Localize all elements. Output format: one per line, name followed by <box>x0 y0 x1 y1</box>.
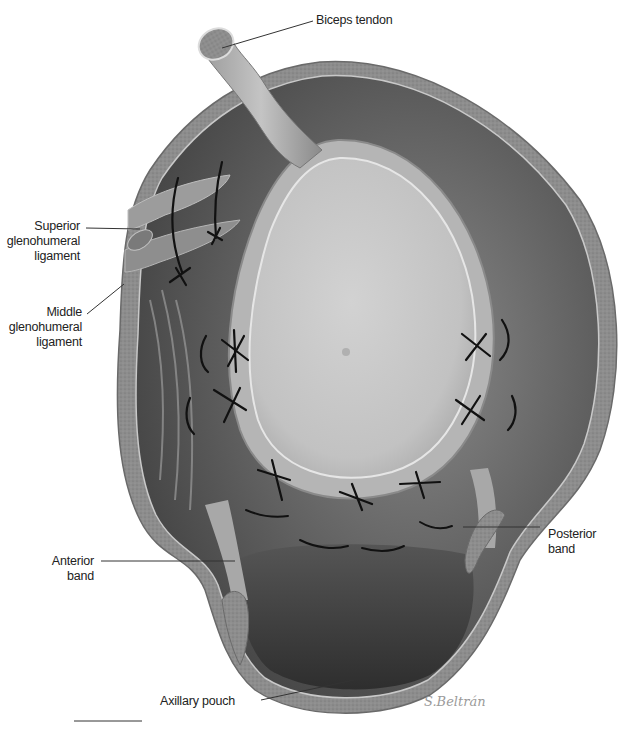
capsule-illustration <box>0 0 632 731</box>
artist-signature: S.Beltrán <box>424 694 486 709</box>
label-anterior-band: Anterior band <box>0 554 94 584</box>
label-superior-gh-ligament: Superior glenohumeral ligament <box>0 219 80 264</box>
axillary-pouch-shape <box>237 544 473 689</box>
label-axillary-pouch: Axillary pouch <box>160 694 235 709</box>
label-posterior-band: Posterior band <box>548 527 596 557</box>
label-middle-gh-ligament: Middle glenohumeral ligament <box>0 305 82 350</box>
label-biceps-tendon: Biceps tendon <box>316 13 393 28</box>
